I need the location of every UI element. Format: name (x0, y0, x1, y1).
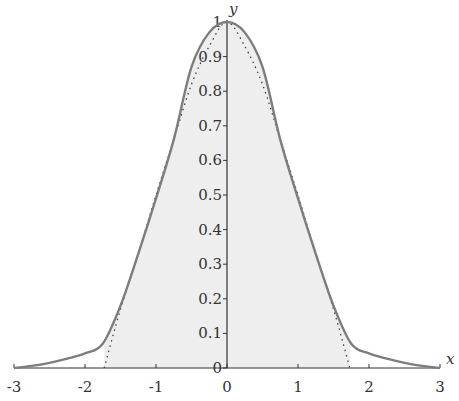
y-tick-label: 0.7 (198, 117, 222, 135)
y-tick-label: 0 (212, 359, 222, 377)
chart: -3-2-10123 00.10.20.30.40.50.60.70.80.91… (0, 0, 459, 401)
y-tick-label: 0.5 (198, 186, 222, 204)
x-tick-label: 1 (293, 378, 303, 396)
x-tick-label: -2 (78, 378, 93, 396)
y-axis-label: y (228, 0, 238, 18)
y-tick-label: 0.2 (198, 290, 222, 308)
y-tick-label: 0.6 (198, 151, 222, 169)
x-tick-label: 3 (435, 378, 445, 396)
x-ticks: -3-2-10123 (7, 364, 445, 396)
y-tick-label: 0.1 (198, 324, 222, 342)
x-tick-label: -3 (7, 378, 22, 396)
x-tick-label: 0 (222, 378, 232, 396)
y-tick-label: 0.3 (198, 255, 222, 273)
x-axis-label: x (446, 350, 455, 368)
y-tick-label: 0.8 (198, 82, 222, 100)
y-tick-label: 0.9 (198, 48, 222, 66)
x-tick-label: -1 (149, 378, 164, 396)
x-tick-label: 2 (364, 378, 374, 396)
y-tick-label: 0.4 (198, 221, 222, 239)
